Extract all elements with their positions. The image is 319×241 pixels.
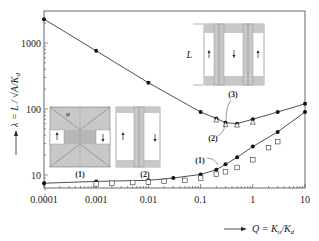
data-point	[146, 81, 150, 85]
x-axis-label: Q = Ku/Kd	[224, 223, 295, 236]
svg-text:Q = Ku/Kd: Q = Ku/Kd	[252, 223, 295, 236]
data-point	[223, 169, 228, 174]
data-point	[235, 155, 239, 159]
data-point	[235, 165, 240, 170]
data-point	[198, 176, 203, 181]
svg-text:(2): (2)	[208, 134, 218, 143]
data-point	[42, 17, 46, 21]
length-L-label: L	[185, 49, 192, 60]
data-point	[146, 180, 151, 185]
x-tick-label: 0.0001	[30, 194, 58, 205]
svg-text:(1): (1)	[195, 156, 205, 165]
x-tick-label: 0.01	[140, 194, 158, 205]
data-point	[94, 182, 99, 187]
annotation-3: (3)	[226, 90, 238, 121]
inset-1-label: (1)	[75, 170, 85, 179]
data-point	[162, 179, 167, 184]
x-tick-label: 0.001	[85, 194, 108, 205]
data-point	[276, 130, 280, 134]
phi-label: φ	[66, 110, 70, 118]
inset-domain-2: (2)	[116, 107, 160, 179]
y-axis-label: λ = L / √A/Kd	[9, 73, 22, 128]
data-point	[251, 145, 255, 149]
data-point	[42, 181, 46, 185]
data-point	[130, 180, 135, 185]
y-tick-label: 100	[26, 104, 41, 115]
y-tick-label: 10	[31, 170, 41, 181]
annotation-1: (1)	[195, 156, 218, 165]
y-axis-arrow-icon	[14, 130, 18, 155]
inset-2-label: (2)	[140, 170, 150, 179]
y-tick-label: 1000	[21, 38, 41, 49]
svg-text:λ = L / √A/Kd: λ = L / √A/Kd	[9, 73, 22, 128]
data-point	[214, 168, 218, 172]
x-tick-label: 1	[250, 194, 255, 205]
data-point	[251, 157, 256, 162]
data-point	[303, 110, 307, 114]
data-point	[224, 162, 228, 166]
data-point	[275, 139, 280, 144]
x-tick-label: 0.1	[194, 194, 207, 205]
x-axis: 0.00010.0010.010.1110	[30, 184, 310, 205]
annotation-2: (2)	[208, 125, 225, 143]
data-point	[303, 102, 307, 106]
data-point	[250, 120, 255, 125]
x-tick-label: 10	[300, 194, 310, 205]
x-axis-arrow-icon	[241, 227, 247, 231]
inset-domain-3: L	[185, 24, 264, 85]
data-point	[94, 49, 98, 53]
data-point	[266, 145, 271, 150]
chart: 101001000 0.00010.0010.010.1110 λ = L / …	[0, 0, 319, 241]
inset-domain-1: φ (1)	[50, 107, 110, 179]
data-point	[183, 178, 188, 183]
svg-text:(3): (3)	[228, 90, 238, 99]
data-point	[276, 110, 280, 114]
data-point	[199, 110, 203, 114]
data-point	[214, 172, 219, 177]
series-1	[214, 118, 255, 128]
data-point	[110, 181, 115, 186]
data-point	[171, 176, 175, 180]
